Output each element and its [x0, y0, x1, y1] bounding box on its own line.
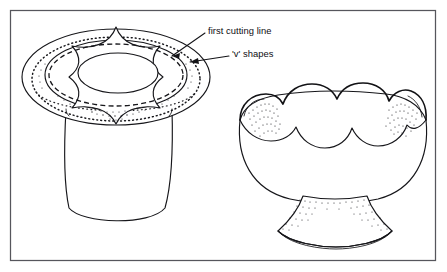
illustration-canvas: first cutting line 'v' shapes	[0, 0, 447, 272]
figure-page: first cutting line 'v' shapes	[0, 0, 447, 272]
inner-opening-ellipse	[78, 53, 158, 93]
label-first-cutting-line: first cutting line	[208, 25, 271, 36]
pot-body	[65, 109, 173, 221]
label-v-shapes: 'v' shapes	[232, 48, 274, 59]
